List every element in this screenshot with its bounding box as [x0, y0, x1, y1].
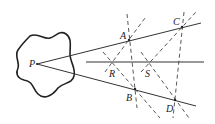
- label-P: P: [28, 58, 35, 69]
- dashed-SC: [141, 12, 196, 72]
- geometry-diagram: P A C R S B D: [0, 0, 215, 124]
- label-C: C: [173, 16, 180, 27]
- label-A: A: [119, 30, 127, 41]
- label-D: D: [165, 103, 174, 114]
- point-B: [134, 88, 136, 90]
- point-A: [128, 39, 130, 41]
- label-R: R: [108, 68, 115, 79]
- point-C: [181, 26, 183, 28]
- point-D: [174, 99, 176, 101]
- label-B: B: [126, 92, 132, 103]
- point-P: [36, 63, 38, 65]
- blob-region: [17, 33, 75, 97]
- line-upper: [37, 23, 201, 64]
- label-S: S: [145, 68, 150, 79]
